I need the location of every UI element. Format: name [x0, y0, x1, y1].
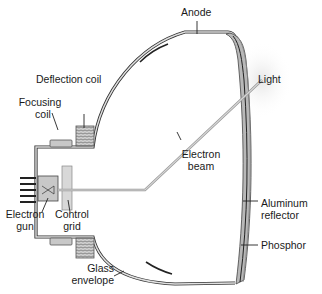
- label-aluminum-reflector-line1: Aluminum: [261, 197, 308, 209]
- label-phosphor: Phosphor: [261, 239, 306, 251]
- label-focusing-coil-line1: Focusing: [18, 96, 62, 108]
- focusing-coil-top: [50, 140, 72, 147]
- label-glass-envelope-line1: Glass: [72, 262, 114, 274]
- label-anode: Anode: [181, 6, 211, 18]
- label-electron-gun-line1: Electron: [2, 208, 48, 220]
- control-grid: [62, 166, 72, 210]
- label-aluminum-reflector-line2: reflector: [261, 209, 299, 221]
- deflection-coil-bottom: [76, 238, 94, 258]
- label-electron-beam-line1: Electron: [178, 148, 224, 160]
- gun-pins: [20, 178, 36, 202]
- label-light: Light: [258, 73, 281, 85]
- electron-gun: [38, 176, 58, 201]
- anode-coating-bottom: [146, 262, 172, 274]
- focusing-coil-bottom: [50, 238, 72, 245]
- label-deflection-coil: Deflection coil: [36, 73, 101, 85]
- label-electron-gun-line2: gun: [2, 220, 48, 232]
- label-control-grid-line1: Control: [52, 208, 92, 220]
- label-electron-beam-line2: beam: [178, 160, 224, 172]
- deflection-coil-top: [76, 126, 94, 146]
- label-focusing-coil-line2: coil: [26, 108, 60, 120]
- label-glass-envelope-line2: envelope: [62, 274, 114, 286]
- label-control-grid-line2: grid: [52, 220, 92, 232]
